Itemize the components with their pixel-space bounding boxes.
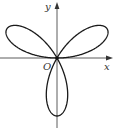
rose-curve-diagram: y x O xyxy=(0,0,115,133)
origin-point xyxy=(55,56,58,59)
x-axis-arrow-icon xyxy=(106,56,113,61)
y-axis-arrow-icon xyxy=(55,2,60,9)
y-axis xyxy=(55,2,60,128)
origin-label: O xyxy=(43,61,51,72)
x-axis-label: x xyxy=(104,61,110,72)
y-axis-label: y xyxy=(44,1,51,12)
